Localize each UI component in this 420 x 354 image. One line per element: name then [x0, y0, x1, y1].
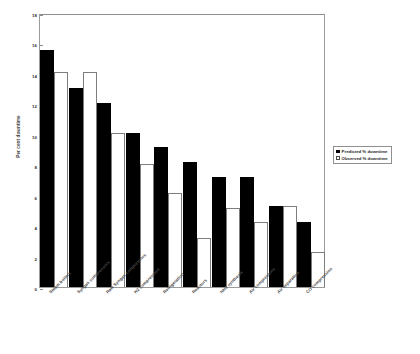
bar-open [54, 72, 68, 287]
bar-filled [97, 103, 111, 287]
y-tick-16: 16 [32, 43, 40, 48]
bar-filled [297, 222, 311, 287]
bar-group [269, 15, 297, 287]
bar-filled [183, 162, 197, 287]
bar-group [97, 15, 125, 287]
plot-area: 024681012141618 [39, 14, 325, 288]
bar-group [126, 15, 154, 287]
bar-filled [40, 50, 54, 287]
bar-filled [69, 88, 83, 287]
y-tick-0: 0 [35, 287, 40, 292]
bar-group [154, 15, 182, 287]
chart-legend: Predicted % downtime Observed % downtime [333, 146, 392, 164]
filled-square-icon [336, 150, 340, 154]
y-axis-title: Per cent downtime [16, 72, 21, 202]
legend-label-predicted: Predicted % downtime [342, 149, 388, 154]
bar-open [111, 133, 125, 287]
y-tick-14: 14 [32, 73, 40, 78]
y-tick-18: 18 [32, 13, 40, 18]
y-tick-10: 10 [32, 134, 40, 139]
legend-item-observed: Observed % downtime [336, 156, 388, 161]
bar-group [69, 15, 97, 287]
tick-mark-icon [40, 289, 43, 290]
bar-group [212, 15, 240, 287]
bar-group [183, 15, 211, 287]
bar-group [240, 15, 268, 287]
bar-filled [212, 177, 226, 287]
legend-item-predicted: Predicted % downtime [336, 149, 388, 154]
bar-group [40, 15, 68, 287]
bar-group [297, 15, 325, 287]
y-tick-12: 12 [32, 104, 40, 109]
bar-open [140, 164, 154, 287]
bar-filled [240, 177, 254, 287]
open-square-icon [336, 156, 340, 160]
bar-open [83, 72, 97, 287]
bar-chart: Per cent downtime 024681012141618 Steam … [0, 0, 420, 354]
bars-layer [40, 15, 324, 287]
legend-label-observed: Observed % downtime [342, 156, 388, 161]
